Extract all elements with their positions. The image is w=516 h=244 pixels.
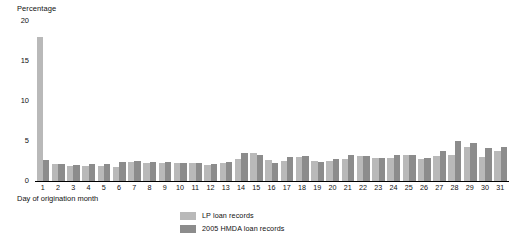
bar-hmda	[165, 162, 171, 181]
chart-legend: LP loan records 2005 HMDA loan records	[180, 210, 285, 236]
bar-group	[113, 21, 126, 181]
bar-hmda	[348, 155, 354, 181]
bar-hmda	[272, 163, 278, 181]
bar-group	[250, 21, 263, 181]
x-tick-label: 5	[96, 183, 111, 193]
bar-group	[372, 21, 385, 181]
bar-group	[494, 21, 507, 181]
bar-hmda	[363, 156, 369, 181]
y-tick-label: 15	[1, 57, 29, 65]
x-tick-label: 27	[432, 183, 447, 193]
bar-hmda	[58, 164, 64, 181]
x-tick-label: 12	[203, 183, 218, 193]
x-axis-tick-labels: 1234567891011121314151617181920212223242…	[35, 183, 508, 195]
x-tick-label: 19	[310, 183, 325, 193]
bar-group	[37, 21, 50, 181]
bar-hmda	[379, 158, 385, 181]
legend-swatch-hmda	[180, 225, 196, 233]
y-tick-label: 20	[1, 17, 29, 25]
legend-item-hmda: 2005 HMDA loan records	[180, 223, 285, 234]
x-tick-label: 6	[111, 183, 126, 193]
bar-group	[342, 21, 355, 181]
bar-chart: Percentage 05101520 12345678910111213141…	[0, 0, 516, 244]
y-tick-label: 0	[1, 177, 29, 185]
bar-hmda	[211, 164, 217, 181]
bar-hmda	[485, 148, 491, 181]
x-tick-label: 11	[188, 183, 203, 193]
x-axis-title: Day of origination month	[17, 194, 98, 203]
bar-hmda	[501, 147, 507, 181]
bar-group	[281, 21, 294, 181]
x-tick-label: 14	[233, 183, 248, 193]
legend-swatch-lp	[180, 212, 196, 220]
x-tick-label: 18	[294, 183, 309, 193]
legend-item-lp: LP loan records	[180, 210, 285, 221]
y-tick-label: 5	[1, 137, 29, 145]
bar-group	[204, 21, 217, 181]
bar-hmda	[241, 153, 247, 181]
x-tick-label: 15	[249, 183, 264, 193]
legend-label-hmda: 2005 HMDA loan records	[202, 224, 285, 233]
x-tick-label: 3	[66, 183, 81, 193]
bar-hmda	[257, 155, 263, 181]
bar-hmda	[89, 164, 95, 181]
bar-hmda	[333, 159, 339, 181]
bar-group	[296, 21, 309, 181]
x-tick-label: 30	[477, 183, 492, 193]
x-tick-label: 7	[127, 183, 142, 193]
x-tick-label: 28	[447, 183, 462, 193]
bar-group	[357, 21, 370, 181]
bar-group	[479, 21, 492, 181]
bar-group	[311, 21, 324, 181]
x-tick-label: 9	[157, 183, 172, 193]
x-tick-label: 20	[325, 183, 340, 193]
bar-group	[448, 21, 461, 181]
bar-hmda	[394, 155, 400, 181]
bar-hmda	[455, 141, 461, 181]
bar-group	[128, 21, 141, 181]
bar-hmda	[104, 164, 110, 181]
bar-hmda	[318, 162, 324, 181]
bar-hmda	[409, 155, 415, 181]
x-tick-label: 1	[35, 183, 50, 193]
plot-area	[35, 21, 508, 181]
x-tick-label: 10	[172, 183, 187, 193]
x-tick-label: 29	[462, 183, 477, 193]
bar-group	[326, 21, 339, 181]
bar-group	[67, 21, 80, 181]
bar-hmda	[440, 151, 446, 181]
bar-hmda	[302, 156, 308, 181]
bar-hmda	[150, 162, 156, 181]
x-tick-label: 23	[371, 183, 386, 193]
bar-group	[98, 21, 111, 181]
x-tick-label: 17	[279, 183, 294, 193]
bar-group	[235, 21, 248, 181]
bar-hmda	[287, 157, 293, 181]
bar-group	[403, 21, 416, 181]
x-tick-label: 24	[386, 183, 401, 193]
bar-group	[433, 21, 446, 181]
bar-group	[418, 21, 431, 181]
bar-hmda	[470, 143, 476, 181]
bar-group	[174, 21, 187, 181]
bar-hmda	[119, 162, 125, 181]
bar-group	[52, 21, 65, 181]
x-tick-label: 16	[264, 183, 279, 193]
x-tick-label: 26	[416, 183, 431, 193]
bar-group	[143, 21, 156, 181]
x-tick-label: 8	[142, 183, 157, 193]
bar-hmda	[424, 158, 430, 181]
x-tick-label: 21	[340, 183, 355, 193]
x-tick-label: 2	[50, 183, 65, 193]
bar-hmda	[43, 160, 49, 181]
bar-hmda	[73, 165, 79, 181]
y-axis-ticks: 05101520	[0, 21, 32, 181]
bar-group	[464, 21, 477, 181]
x-tick-label: 31	[493, 183, 508, 193]
bar-hmda	[196, 163, 202, 181]
bar-group	[189, 21, 202, 181]
legend-label-lp: LP loan records	[202, 211, 254, 220]
x-tick-label: 22	[355, 183, 370, 193]
bar-group	[82, 21, 95, 181]
bar-hmda	[134, 161, 140, 181]
